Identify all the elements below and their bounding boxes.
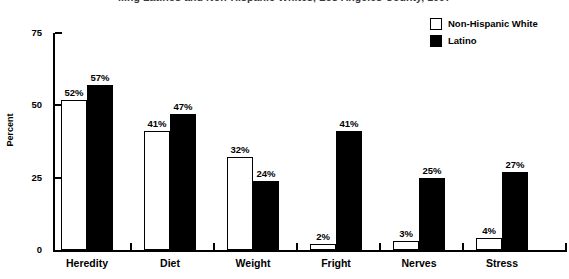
- bar-value-label: 25%: [414, 166, 450, 176]
- x-tick-mark: [213, 243, 215, 251]
- x-tick-mark: [130, 243, 132, 251]
- y-tick-label: 25: [16, 173, 42, 183]
- bar: [144, 131, 170, 250]
- x-category-label: Nerves: [377, 258, 461, 269]
- x-tick-mark: [379, 243, 381, 251]
- legend-label-non-hispanic-white: Non-Hispanic White: [448, 19, 538, 29]
- bar: [476, 238, 502, 250]
- bar-value-label: 57%: [82, 73, 118, 83]
- x-tick-mark: [296, 243, 298, 251]
- bar-value-label: 27%: [497, 160, 533, 170]
- bar-value-label: 32%: [222, 145, 258, 155]
- x-category-label: Stress: [460, 258, 544, 269]
- y-axis-line: [53, 33, 55, 251]
- y-tick-label: 50: [16, 100, 42, 110]
- y-axis-title: Percent: [5, 100, 15, 160]
- bar: [87, 85, 113, 250]
- chart-legend: Non-Hispanic White Latino: [430, 15, 569, 49]
- legend-swatch-latino: [430, 35, 442, 47]
- legend-item-latino: Latino: [430, 32, 569, 49]
- legend-item-non-hispanic-white: Non-Hispanic White: [430, 15, 569, 32]
- x-category-label: Heredity: [45, 258, 129, 269]
- x-tick-mark: [462, 243, 464, 251]
- y-tick-label: 75: [16, 28, 42, 38]
- legend-swatch-non-hispanic-white: [430, 18, 442, 30]
- y-tick-label: 0: [16, 245, 42, 255]
- x-category-label: Diet: [128, 258, 212, 269]
- bar-value-label: 41%: [331, 119, 367, 129]
- x-category-label: Weight: [211, 258, 295, 269]
- bar: [393, 241, 419, 250]
- bar: [253, 181, 279, 250]
- bar: [61, 100, 87, 250]
- chart-title: ...ng Latinos and Non-Hispanic Whites, L…: [0, 0, 569, 3]
- bar: [310, 244, 336, 250]
- legend-label-latino: Latino: [448, 36, 477, 46]
- x-axis-end-cap: [565, 243, 567, 252]
- bar: [419, 178, 445, 250]
- bar: [502, 172, 528, 250]
- bar-chart: ...ng Latinos and Non-Hispanic Whites, L…: [0, 0, 569, 279]
- bar: [336, 131, 362, 250]
- y-tick-mark: [55, 32, 62, 34]
- bar-value-label: 24%: [248, 169, 284, 179]
- x-category-label: Fright: [294, 258, 378, 269]
- bar: [170, 114, 196, 250]
- bar-value-label: 47%: [165, 102, 201, 112]
